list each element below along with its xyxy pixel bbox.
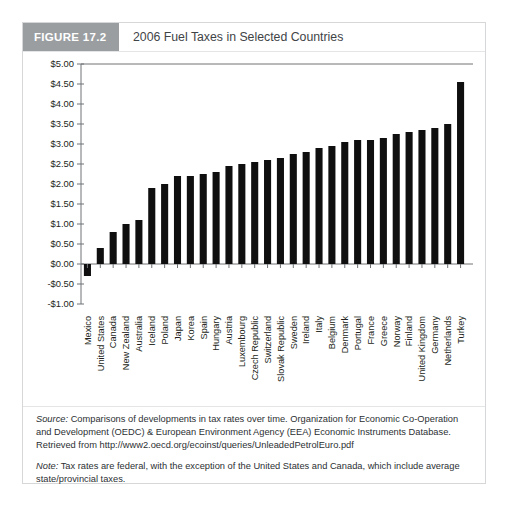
note-text: Tax rates are federal, with the exceptio… (36, 461, 460, 484)
x-axis-category-label: Japan (173, 316, 183, 341)
bar (431, 128, 438, 264)
bar (444, 124, 451, 264)
x-axis-category-label: Belgium (327, 316, 337, 350)
bar (457, 82, 464, 264)
bar (187, 176, 194, 264)
x-axis-category-label: Luxembourg (237, 316, 247, 367)
x-axis-category-label: Netherlands (443, 316, 453, 366)
x-axis-category-label: United Kingdom (417, 316, 427, 382)
x-axis-category-label: Spain (199, 316, 209, 340)
bar (290, 154, 297, 264)
x-axis-category-label: New Zealand (121, 316, 131, 370)
y-axis-tick-label: $1.50 (51, 198, 74, 209)
x-axis-category-label: Mexico (83, 316, 93, 345)
bar (315, 148, 322, 264)
x-axis-category-label: Portugal (353, 316, 363, 350)
source-text: Comparisons of developments in tax rates… (36, 414, 458, 450)
x-axis-category-label: Greece (379, 316, 389, 346)
bar (122, 224, 129, 264)
figure-footnotes: Source: Comparisons of developments in t… (23, 406, 485, 486)
y-axis-tick-label: $4.00 (51, 98, 74, 109)
y-axis-tick-label: $3.50 (51, 118, 74, 129)
x-axis-category-label: Norway (392, 316, 402, 348)
x-axis-category-label: Canada (108, 315, 118, 348)
bar (225, 166, 232, 264)
bar (380, 138, 387, 264)
x-axis-category-label: Turkey (456, 316, 466, 344)
figure-card: FIGURE 17.2 2006 Fuel Taxes in Selected … (22, 22, 486, 484)
figure-title: 2006 Fuel Taxes in Selected Countries (119, 23, 343, 51)
source-label: Source: (36, 414, 68, 424)
bar (213, 172, 220, 264)
x-axis-category-label: Switzerland (263, 316, 273, 364)
bar (200, 174, 207, 264)
bar (174, 176, 181, 264)
x-axis-category-label: Germany (430, 316, 440, 354)
bar (238, 164, 245, 264)
x-axis-category-label: Australia (134, 315, 144, 352)
x-axis-category-label: Korea (186, 315, 196, 340)
x-axis-category-label: United States (96, 316, 106, 372)
general-note: Note: Tax rates are federal, with the ex… (36, 460, 472, 486)
y-axis-tick-label: $2.50 (51, 158, 74, 169)
y-axis-tick-label: $0.00 (51, 258, 74, 269)
y-axis-tick-label: $1.00 (51, 218, 74, 229)
y-axis-tick-label: $3.00 (51, 138, 74, 149)
bar (264, 160, 271, 264)
x-axis-category-label: Denmark (340, 316, 350, 354)
x-axis-category-label: France (366, 316, 376, 345)
source-note: Source: Comparisons of developments in t… (36, 413, 472, 453)
bar (303, 152, 310, 264)
x-axis-category-label: Slovak Republic (276, 316, 286, 382)
x-axis-category-label: Czech Republic (250, 316, 260, 381)
x-axis-category-label: Austria (224, 315, 234, 344)
figure-number-badge: FIGURE 17.2 (23, 23, 119, 51)
bar (251, 162, 258, 264)
x-axis-category-label: Poland (160, 316, 170, 345)
bar (354, 140, 361, 264)
figure-header: FIGURE 17.2 2006 Fuel Taxes in Selected … (23, 23, 485, 52)
bar (393, 134, 400, 264)
y-axis-tick-label: $5.00 (51, 58, 74, 69)
bar (97, 248, 104, 264)
y-axis-tick-label: $2.00 (51, 178, 74, 189)
y-axis-tick-label: -$1.00 (47, 298, 74, 309)
bar-chart: $5.00$4.50$4.00$3.50$3.00$2.50$2.00$1.50… (23, 52, 485, 404)
x-axis-category-label: Italy (314, 316, 324, 333)
x-axis-category-label: Sweden (289, 316, 299, 349)
x-axis-category-label: Iceland (147, 316, 157, 346)
bar (367, 140, 374, 264)
bar (161, 184, 168, 264)
bar (406, 132, 413, 264)
bar (148, 188, 155, 264)
y-axis-tick-label: -$0.50 (47, 278, 74, 289)
y-axis-tick-label: $4.50 (51, 78, 74, 89)
chart-plot-area: $5.00$4.50$4.00$3.50$3.00$2.50$2.00$1.50… (23, 52, 485, 404)
x-axis-category-label: Finland (404, 316, 414, 346)
x-axis-category-label: Hungary (211, 316, 221, 351)
bar (341, 142, 348, 264)
bar (110, 232, 117, 264)
bar (135, 220, 142, 264)
y-axis-tick-label: $0.50 (51, 238, 74, 249)
note-label: Note: (36, 461, 58, 471)
x-axis-category-label: Ireland (301, 316, 311, 344)
bar (277, 158, 284, 264)
bar (418, 130, 425, 264)
bar (328, 146, 335, 264)
